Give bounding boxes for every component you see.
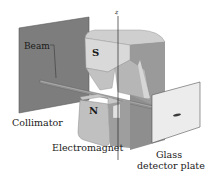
stern-gerlach-diagram: z Beam S N Collimator Electromagnet Glas… (0, 0, 214, 174)
glass-label: Glass (149, 150, 189, 160)
collimator-plate (19, 17, 89, 113)
collimator-label: Collimator (12, 118, 63, 128)
beam-label: Beam (24, 42, 50, 51)
north-pole-block (78, 94, 130, 148)
south-pole-label: S (92, 47, 99, 58)
electromagnet-label: Electromagnet (52, 143, 123, 153)
z-axis-label: z (115, 9, 118, 15)
detector-plate-label: detector plate (137, 161, 205, 171)
south-pole-block (85, 30, 165, 104)
north-pole-label: N (89, 105, 98, 116)
